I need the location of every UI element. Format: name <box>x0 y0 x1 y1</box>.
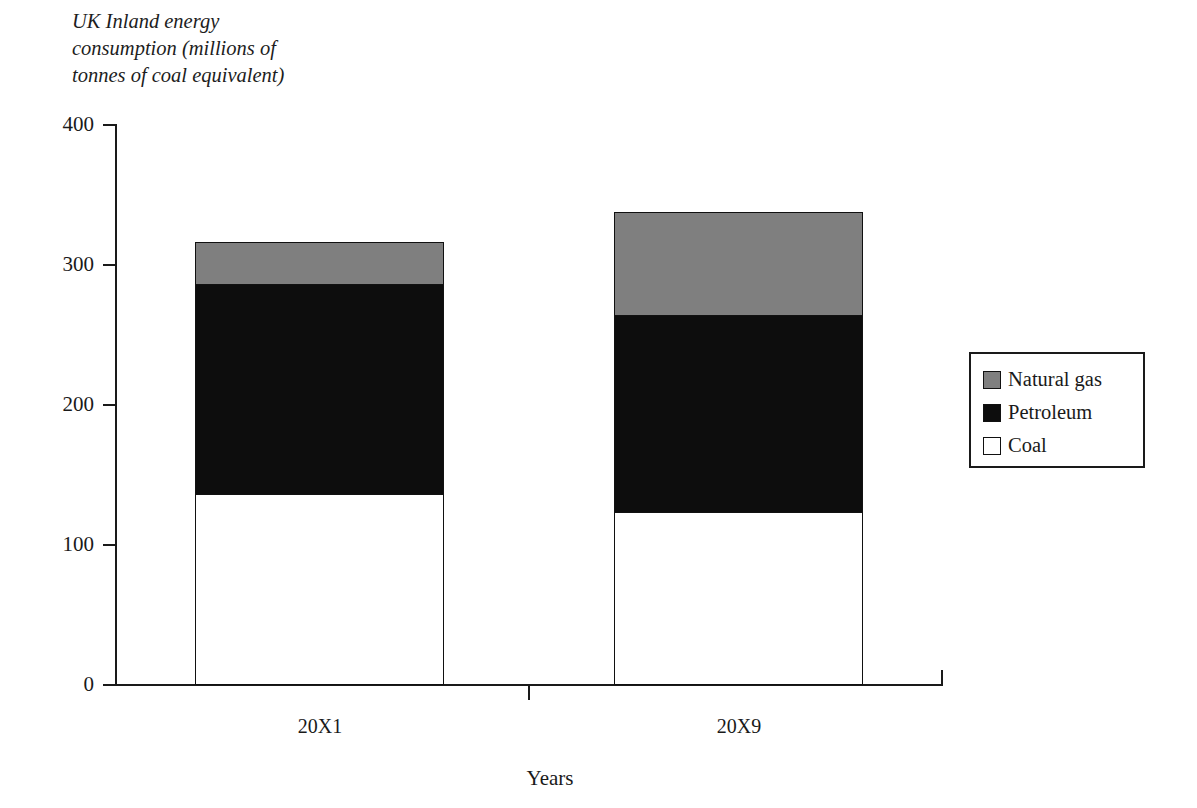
bar-20x9-coal[interactable] <box>614 512 863 685</box>
chart-plot-area: 400 300 200 100 0 20X1 20X9 Years Natura… <box>0 0 1197 808</box>
x-tick-label-20x9: 20X9 <box>659 716 819 736</box>
y-tick-label-300: 300 <box>32 254 94 275</box>
legend-item-coal[interactable]: Coal <box>983 429 1143 462</box>
legend-label-natural-gas: Natural gas <box>1008 369 1102 390</box>
y-tick-400 <box>103 124 116 126</box>
y-tick-300 <box>103 264 116 266</box>
coal-swatch-icon <box>983 437 1001 455</box>
legend-label-petroleum: Petroleum <box>1008 402 1092 423</box>
x-tick-middle <box>528 686 530 700</box>
legend-label-coal: Coal <box>1008 435 1047 456</box>
x-tick-label-20x1: 20X1 <box>240 716 400 736</box>
petroleum-swatch-icon <box>983 404 1001 422</box>
legend-item-natural-gas[interactable]: Natural gas <box>983 363 1143 396</box>
y-tick-label-200: 200 <box>32 394 94 415</box>
bar-20x9-natural-gas[interactable] <box>614 212 863 316</box>
legend-item-petroleum[interactable]: Petroleum <box>983 396 1143 429</box>
chart-legend: Natural gas Petroleum Coal <box>969 352 1145 468</box>
y-tick-0 <box>103 684 116 686</box>
natural-gas-swatch-icon <box>983 371 1001 389</box>
x-axis-end-tick <box>941 670 943 686</box>
bar-20x9-petroleum[interactable] <box>614 315 863 513</box>
x-axis-title: Years <box>450 766 650 791</box>
y-tick-100 <box>103 544 116 546</box>
y-tick-200 <box>103 404 116 406</box>
y-tick-label-400: 400 <box>32 114 94 135</box>
bar-20x1-natural-gas[interactable] <box>195 242 444 285</box>
bar-20x1-petroleum[interactable] <box>195 284 444 495</box>
y-tick-label-0: 0 <box>32 674 94 695</box>
y-tick-label-100: 100 <box>32 534 94 555</box>
bar-20x1-coal[interactable] <box>195 494 444 685</box>
